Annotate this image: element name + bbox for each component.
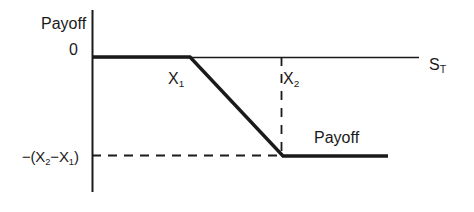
min-payoff-sub-1: 1 <box>69 157 74 167</box>
min-payoff-sub-2: 2 <box>45 157 50 167</box>
x-axis-title: ST <box>429 57 446 73</box>
payoff-curve-label: Payoff <box>314 130 359 146</box>
x2-base: X <box>283 70 294 87</box>
x1-subscript: 1 <box>179 78 185 89</box>
x2-tick-label: X2 <box>283 71 299 87</box>
x1-tick-label: X1 <box>168 71 184 87</box>
min-payoff-open: −(X <box>22 148 45 165</box>
st-subscript: T <box>440 63 446 75</box>
min-payoff-mid: −X <box>50 148 68 165</box>
zero-tick-label: 0 <box>69 42 78 58</box>
st-base: S <box>429 56 440 73</box>
payoff-diagram: Payoff 0 X1 X2 ST −(X2−X1) Payoff <box>0 0 474 212</box>
min-payoff-tick-label: −(X2−X1) <box>22 149 79 164</box>
y-axis-title: Payoff <box>41 16 86 32</box>
min-payoff-close: ) <box>74 148 79 165</box>
x1-base: X <box>168 70 179 87</box>
x2-subscript: 2 <box>294 78 300 89</box>
